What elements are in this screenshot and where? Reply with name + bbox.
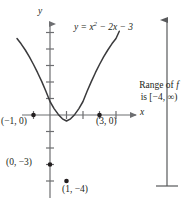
y-axis-label: y: [38, 7, 42, 17]
range-note: Range of f is [−4, ∞): [126, 80, 192, 103]
range-note-line1: Range of f: [139, 80, 179, 90]
point-vertex: [64, 179, 69, 184]
x-axis-label: x: [140, 108, 144, 118]
equation-lhs: y = x: [74, 22, 94, 32]
equation-label: y = x2 − 2x − 3: [74, 20, 133, 33]
range-note-prefix: Range of: [139, 80, 176, 90]
range-note-line2: is [−4, ∞): [141, 92, 178, 102]
point-root-left: [31, 113, 36, 118]
point-label-root-right: (3, 0): [96, 117, 117, 127]
equation-rhs: − 2x − 3: [97, 22, 133, 32]
point-label-root-left: (−1, 0): [1, 117, 27, 127]
point-label-vertex: (1, −4): [62, 185, 88, 195]
point-label-y-intercept: (0, −3): [6, 158, 32, 168]
point-y-intercept: [48, 162, 53, 167]
parabola-curve: [17, 31, 119, 121]
range-note-function-var: f: [176, 80, 179, 90]
figure-container: y x y = x2 − 2x − 3 (−1, 0) (3, 0) (0, −…: [0, 0, 194, 208]
